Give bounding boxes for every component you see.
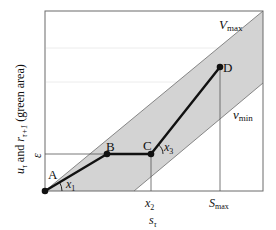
vmin-label: vmin [233, 107, 253, 123]
feasible-region-diagram: A B C D x1 x3 Vmax vmin x2 Smax sτ ε uτ … [0, 0, 276, 230]
x-axis-label: sτ [149, 213, 158, 229]
point-b-label: B [106, 139, 115, 154]
point-a [42, 188, 49, 195]
point-a-label: A [48, 167, 58, 182]
x-tick-smax: Smax [209, 196, 229, 211]
point-c-label: C [143, 138, 152, 153]
y-tick-epsilon: ε [30, 153, 44, 158]
y-axis-label: uτ and rτ+1 (green area) [13, 64, 29, 174]
point-d-label: D [223, 60, 232, 75]
x-tick-x2: x2 [144, 196, 154, 212]
vmax-label: Vmax [219, 17, 243, 33]
